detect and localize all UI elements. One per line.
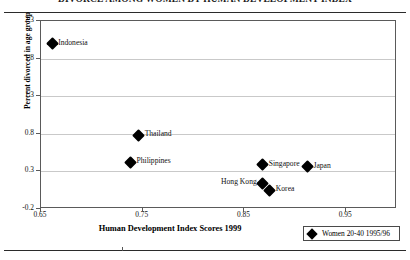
y-axis-tick-label: 1.8 (4, 53, 34, 62)
x-axis-tick-mark (345, 208, 346, 212)
x-axis-tick-mark (243, 208, 244, 212)
y-axis-tick-label: 1.3 (4, 90, 34, 99)
y-axis-tick-mark (36, 170, 40, 171)
y-axis-tick-mark (36, 95, 40, 96)
gridline-horizontal (41, 171, 395, 172)
y-axis-tick-label: 0.3 (4, 165, 34, 174)
data-point-label: Hong Kong (221, 177, 257, 186)
x-axis-tick-mark (40, 208, 41, 212)
diamond-marker-icon (124, 156, 137, 169)
data-point-label: Indonesia (58, 38, 88, 47)
plot-area: IndonesiaThailandPhilippinesSingaporeJap… (40, 20, 396, 208)
bottom-divider-rule (4, 250, 406, 251)
legend-diamond-icon (306, 228, 317, 239)
diamond-marker-icon (256, 158, 269, 171)
data-point-label: Singapore (269, 159, 300, 168)
y-axis-tick-mark (36, 20, 40, 21)
y-axis-tick-label: 0.8 (4, 128, 34, 137)
diamond-marker-icon (46, 37, 59, 50)
figure-title: DIVORCE AMONG WOMEN BY HUMAN DEVELOPMENT… (0, 0, 410, 3)
y-axis-tick-mark (36, 133, 40, 134)
chart-legend: Women 20-40 1995/96 (303, 226, 400, 241)
gridline-horizontal (41, 96, 395, 97)
legend-series-label: Women 20-40 1995/96 (322, 229, 390, 238)
gridline-horizontal (41, 134, 395, 135)
data-point-label: Philippines (137, 156, 171, 165)
x-axis-tick-mark (142, 208, 143, 212)
top-divider-rule (4, 12, 406, 13)
y-axis-tick-mark (36, 58, 40, 59)
diamond-marker-icon (132, 129, 145, 142)
gridline-horizontal (41, 59, 395, 60)
x-axis-label: Human Development Index Scores 1999 (40, 224, 300, 233)
y-axis-tick-label: 2.3 (4, 15, 34, 24)
data-point-label: Thailand (145, 129, 172, 138)
bottom-rule-tick (122, 247, 123, 251)
data-point-label: Korea (276, 184, 295, 193)
data-point-label: Japan (313, 161, 330, 170)
figure-container: DIVORCE AMONG WOMEN BY HUMAN DEVELOPMENT… (0, 0, 410, 260)
